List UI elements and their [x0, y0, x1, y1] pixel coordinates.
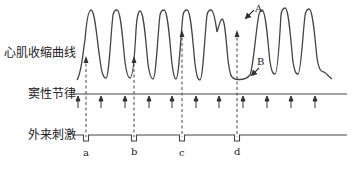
label-external-stimulus: 外来刺激 [28, 128, 76, 142]
annotation-arrow-a [247, 10, 254, 17]
stimulus-mark-d: d [234, 146, 240, 158]
contraction-curve [77, 8, 332, 80]
annotation-b: B [257, 56, 264, 68]
label-sinus-rhythm: 窦性节律 [28, 87, 76, 101]
diagram-svg [0, 0, 352, 169]
stimulus-line [73, 135, 347, 141]
sinus-beat-arrows [76, 96, 317, 108]
stimulus-mark-c: c [179, 147, 185, 159]
annotation-a: A [255, 3, 262, 15]
trigger-arrowheads [84, 30, 240, 63]
stimulus-mark-a: a [83, 147, 89, 159]
annotation-arrow-b [253, 68, 259, 74]
stimulus-mark-b: b [131, 146, 137, 158]
trigger-dashed-lines [86, 32, 237, 137]
cardiac-contraction-diagram: 心肌收缩曲线 窦性节律 外来刺激 A B a b c d [0, 0, 352, 169]
label-contraction-curve: 心肌收缩曲线 [4, 46, 76, 60]
